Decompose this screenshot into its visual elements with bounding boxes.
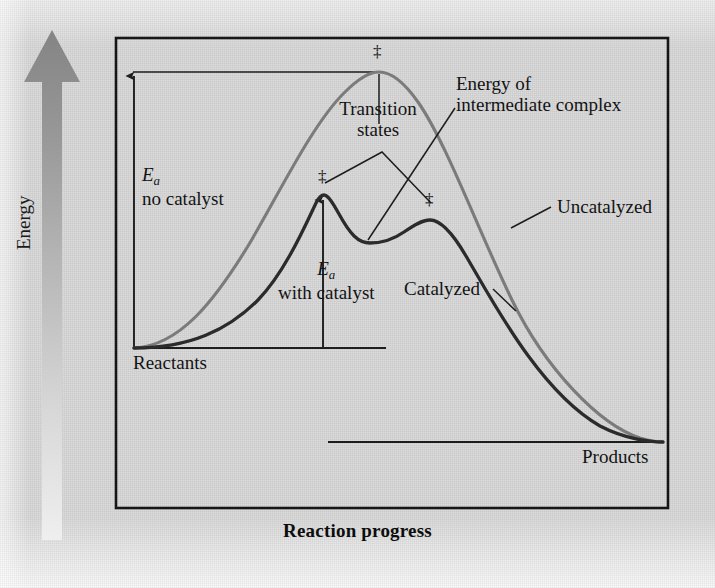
uncatalyzed-label: Uncatalyzed xyxy=(557,196,652,217)
transition-states-line2: states xyxy=(303,119,453,140)
catalyzed-curve xyxy=(134,195,663,442)
energy-intermediate-line1: Energy of xyxy=(456,73,621,94)
products-label: Products xyxy=(582,446,649,467)
ea-with-catalyst-symbol: E xyxy=(317,258,329,279)
transition-state-dagger-uncatalyzed: ‡ xyxy=(373,42,382,61)
ea-with-catalyst-label: Ea with catalyst xyxy=(278,258,375,303)
transition-states-label: Transition states xyxy=(303,98,453,141)
energy-intermediate-line2: intermediate complex xyxy=(456,94,621,115)
transition-state-dagger-catalyzed-second: ‡ xyxy=(425,190,434,209)
ea-no-catalyst-text: no catalyst xyxy=(142,188,224,209)
ea-with-catalyst-text: with catalyst xyxy=(278,282,375,303)
catalyzed-label: Catalyzed xyxy=(404,278,480,299)
energy-arrow-icon xyxy=(24,30,80,540)
transition-states-leader-bracket xyxy=(325,152,431,203)
uncatalyzed-leader xyxy=(511,207,551,228)
transition-state-dagger-catalyzed-first: ‡ xyxy=(318,167,327,186)
y-axis-label: Energy xyxy=(13,130,35,250)
transition-states-line1: Transition xyxy=(303,98,453,119)
ea-no-catalyst-label: Ea no catalyst xyxy=(142,164,224,209)
figure-caption: Reaction progress xyxy=(0,520,715,542)
ea-with-catalyst-subscript: a xyxy=(329,267,335,282)
ea-no-catalyst-symbol: E xyxy=(142,164,154,185)
reactants-label: Reactants xyxy=(133,352,207,373)
figure-page: ‡ ‡ ‡ Ea no catalyst Ea with catalyst Tr… xyxy=(0,0,715,588)
energy-intermediate-complex-label: Energy of intermediate complex xyxy=(456,73,621,116)
ea-no-catalyst-subscript: a xyxy=(154,173,160,188)
